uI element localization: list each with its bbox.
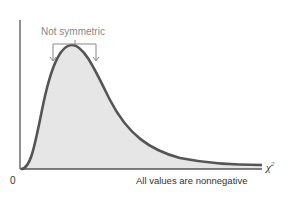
- nonnegative-label: All values are nonnegative: [136, 175, 247, 186]
- x-axis-label: χ2: [266, 160, 274, 173]
- superscript-2: 2: [271, 160, 275, 168]
- not-symmetric-label: Not symmetric: [41, 26, 105, 37]
- origin-label: 0: [10, 175, 16, 186]
- curve-fill: [21, 45, 262, 169]
